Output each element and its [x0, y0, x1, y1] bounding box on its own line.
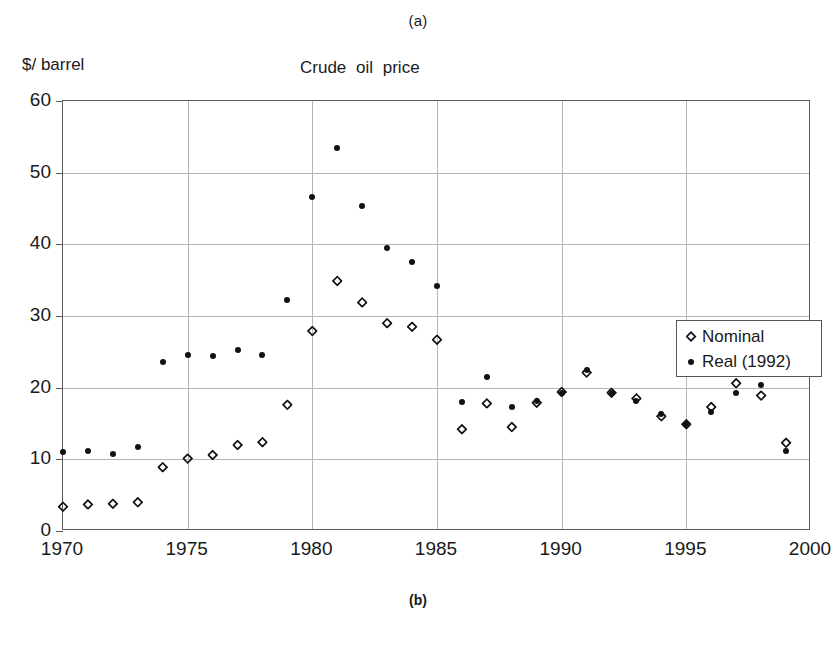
legend-item-nominal: Nominal [683, 324, 815, 349]
data-point-real [60, 449, 66, 455]
gridline-horizontal [63, 459, 809, 460]
data-point-real [459, 399, 465, 405]
data-point-nominal [407, 321, 418, 332]
legend-label-nominal: Nominal [702, 327, 764, 347]
data-point-real [758, 382, 764, 388]
y-axis-unit-label: $/ barrel [22, 55, 84, 75]
data-point-real [733, 390, 739, 396]
gridline-horizontal [63, 244, 809, 245]
data-point-real [658, 411, 664, 417]
data-point-real [434, 283, 440, 289]
data-point-nominal [506, 422, 517, 433]
data-point-real [135, 444, 141, 450]
data-point-real [509, 404, 515, 410]
y-axis-tick-label: 30 [30, 304, 51, 326]
data-point-real [783, 448, 789, 454]
data-point-nominal [107, 498, 118, 509]
gridline-vertical [686, 101, 687, 529]
gridline-horizontal [63, 316, 809, 317]
data-point-real [210, 353, 216, 359]
data-point-real [284, 297, 290, 303]
y-axis-tick [56, 244, 63, 245]
figure-crude-oil-price: (a) $/ barrel Crude oil price Nominal Re… [0, 0, 836, 653]
data-point-nominal [157, 462, 168, 473]
data-point-real [609, 390, 615, 396]
data-point-real [484, 374, 490, 380]
data-point-nominal [232, 440, 243, 451]
panel-label-a: (a) [0, 12, 836, 29]
y-axis-tick [56, 531, 63, 532]
filled-dot-icon [683, 359, 699, 365]
data-point-nominal [781, 437, 792, 448]
data-point-real [384, 245, 390, 251]
y-axis-tick [56, 388, 63, 389]
data-point-real [584, 367, 590, 373]
data-point-real [334, 145, 340, 151]
data-point-nominal [282, 399, 293, 410]
data-point-real [235, 347, 241, 353]
y-axis-tick [56, 459, 63, 460]
data-point-nominal [257, 437, 268, 448]
data-point-real [110, 451, 116, 457]
data-point-real [708, 409, 714, 415]
data-point-real [359, 203, 365, 209]
x-axis-tick-label: 2000 [789, 538, 831, 560]
data-point-nominal [132, 497, 143, 508]
data-point-nominal [382, 318, 393, 329]
x-axis-tick-label: 1985 [415, 538, 457, 560]
data-point-nominal [82, 499, 93, 510]
data-point-real [534, 398, 540, 404]
x-axis-tick-label: 1975 [166, 538, 208, 560]
y-axis-tick [56, 101, 63, 102]
y-axis-tick [56, 316, 63, 317]
y-axis-tick-label: 20 [30, 376, 51, 398]
data-point-real [85, 448, 91, 454]
data-point-real [309, 194, 315, 200]
gridline-horizontal [63, 173, 809, 174]
data-point-real [683, 421, 689, 427]
data-point-real [185, 352, 191, 358]
panel-label-b: (b) [0, 592, 836, 608]
data-point-nominal [756, 390, 767, 401]
chart-legend: Nominal Real (1992) [676, 320, 822, 377]
data-point-nominal [456, 424, 467, 435]
x-axis-tick-label: 1970 [41, 538, 83, 560]
data-point-nominal [357, 297, 368, 308]
chart-title: Crude oil price [300, 58, 420, 78]
y-axis-tick-label: 50 [30, 161, 51, 183]
data-point-real [633, 398, 639, 404]
gridline-vertical [437, 101, 438, 529]
y-axis-tick-label: 60 [30, 89, 51, 111]
gridline-vertical [312, 101, 313, 529]
y-axis-tick [56, 173, 63, 174]
data-point-real [160, 359, 166, 365]
plot-area: Nominal Real (1992) [62, 100, 810, 530]
open-diamond-icon [683, 331, 699, 342]
data-point-nominal [332, 275, 343, 286]
x-axis-tick-label: 1995 [664, 538, 706, 560]
legend-label-real: Real (1992) [702, 352, 791, 372]
gridline-horizontal [63, 388, 809, 389]
data-point-real [559, 390, 565, 396]
data-point-nominal [58, 501, 69, 512]
legend-item-real: Real (1992) [683, 349, 815, 374]
gridline-vertical [188, 101, 189, 529]
gridline-vertical [562, 101, 563, 529]
data-point-real [259, 352, 265, 358]
y-axis-tick-label: 40 [30, 232, 51, 254]
y-axis-tick-label: 10 [30, 447, 51, 469]
x-axis-tick-label: 1990 [540, 538, 582, 560]
x-axis-tick-label: 1980 [290, 538, 332, 560]
data-point-real [409, 259, 415, 265]
data-point-nominal [481, 398, 492, 409]
